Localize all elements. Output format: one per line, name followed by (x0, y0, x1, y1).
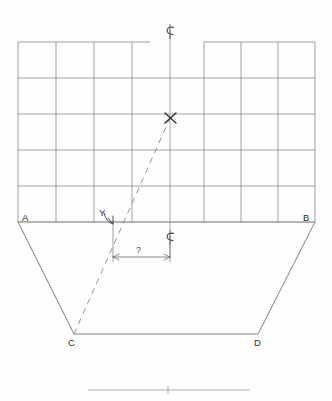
corner-label-c: C (68, 338, 75, 348)
point-label-y: Y (99, 208, 106, 218)
dimension-extension-lines (113, 222, 170, 262)
centerline-glyph-icon-2 (164, 230, 176, 245)
dimension-arrow-line (113, 254, 170, 260)
sketch-canvas: A B C D Y ? (0, 0, 332, 401)
trapezoid-side-ac (18, 222, 74, 334)
scale-bar (88, 386, 250, 394)
corner-label-b: B (303, 213, 310, 223)
dimension-value-label: ? (136, 246, 141, 255)
centerline-symbol-top (164, 24, 176, 39)
centerline-glyph-icon (164, 24, 176, 39)
grid-vertical-lines (18, 42, 315, 222)
corner-label-a: A (22, 213, 29, 223)
centerline-symbol-dimension (164, 230, 176, 245)
trapezoid-side-bd (258, 222, 315, 334)
drawing-svg (0, 0, 332, 401)
dashed-construction-line (74, 118, 170, 334)
x-cross-marker (165, 113, 176, 123)
corner-label-d: D (254, 338, 261, 348)
